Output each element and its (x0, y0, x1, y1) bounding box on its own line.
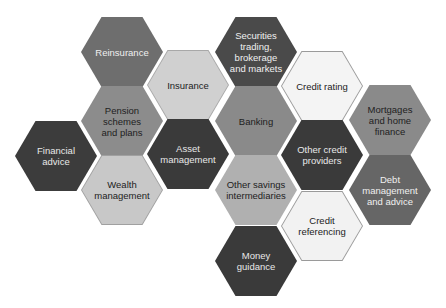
hex-label: Asset management (154, 143, 221, 165)
hex-financial-advice: Financial advice (15, 121, 97, 191)
hex-label: Banking (233, 116, 279, 127)
hex-wealth: Wealth management (81, 155, 163, 225)
hex-label: Credit rating (290, 81, 354, 92)
hex-securities: Securities trading, brokerage and market… (215, 17, 297, 87)
hex-money-guidance: Money guidance (215, 226, 297, 296)
hex-insurance: Insurance (147, 50, 229, 120)
hex-label: Wealth management (88, 179, 155, 201)
hex-label: Securities trading, brokerage and market… (224, 30, 288, 74)
hex-reinsurance: Reinsurance (81, 17, 163, 87)
hex-label: Credit referencing (292, 215, 352, 237)
hex-label: Reinsurance (89, 47, 154, 58)
hex-label: Insurance (161, 80, 215, 91)
hex-label: Debt management and advice (356, 174, 423, 207)
hex-other-savings: Other savings intermediaries (215, 155, 297, 225)
hex-label: Financial advice (31, 145, 81, 167)
hex-pension: Pension schemes and plans (81, 86, 163, 156)
hex-label: Other credit providers (291, 144, 353, 166)
hex-debt: Debt management and advice (349, 155, 431, 225)
hex-banking: Banking (215, 86, 297, 156)
hex-mortgages: Mortgages and home finance (349, 85, 431, 155)
hex-credit-referencing: Credit referencing (281, 191, 363, 261)
hex-credit-rating: Credit rating (281, 51, 363, 121)
hex-label: Other savings intermediaries (220, 179, 292, 201)
hex-label: Money guidance (231, 250, 282, 272)
hex-label: Mortgages and home finance (362, 104, 419, 137)
financial-services-hex-diagram: Reinsurance Securities trading, brokerag… (0, 0, 446, 308)
hex-asset-management: Asset management (147, 119, 229, 189)
hex-label: Pension schemes and plans (95, 105, 148, 138)
hex-other-credit: Other credit providers (281, 120, 363, 190)
